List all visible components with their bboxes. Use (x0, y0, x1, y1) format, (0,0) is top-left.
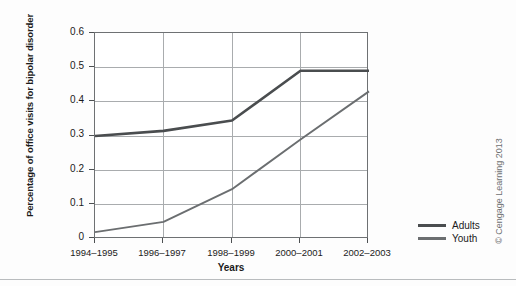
x-tick-label-1996-1997: 1996–1997 (124, 247, 200, 258)
x-tick-mark-2000-2001 (299, 238, 300, 243)
y-tick-label-0.1: 0.1 (48, 197, 84, 208)
series-lines (95, 33, 369, 239)
x-tick-label-2000-2001: 2000–2001 (261, 247, 337, 258)
y-tick-label-0.4: 0.4 (48, 94, 84, 105)
y-tick-label-0.2: 0.2 (48, 163, 84, 174)
x-axis-title: Years (94, 262, 368, 273)
y-axis-title: Percentage of office visits for bipolar … (24, 1, 35, 231)
legend-label-youth: Youth (452, 233, 477, 244)
legend-item-youth: Youth (418, 232, 480, 245)
chart-figure: Percentage of office visits for bipolar … (0, 0, 516, 286)
x-tick-label-2002-2003: 2002–2003 (329, 247, 405, 258)
legend-swatch-youth (418, 237, 446, 240)
y-tick-label-0: 0 (48, 231, 84, 242)
figure-bottom-rule (0, 279, 516, 280)
y-tick-label-0.3: 0.3 (48, 128, 84, 139)
x-tick-label-1998-1999: 1998–1999 (193, 247, 269, 258)
x-tick-mark-1996-1997 (162, 238, 163, 243)
legend-label-adults: Adults (452, 220, 480, 231)
x-tick-label-1994-1995: 1994–1995 (56, 247, 132, 258)
legend-swatch-adults (418, 224, 446, 227)
chart-legend: Adults Youth (418, 219, 480, 245)
line-series-adults (95, 71, 369, 136)
x-tick-mark-2002-2003 (367, 238, 368, 243)
y-tick-label-0.5: 0.5 (48, 60, 84, 71)
y-tick-label-0.6: 0.6 (48, 26, 84, 37)
x-tick-mark-1998-1999 (231, 238, 232, 243)
copyright-credit: © Cengage Learning 2013 (494, 101, 504, 281)
line-series-youth (95, 91, 369, 232)
x-tick-mark-1994-1995 (94, 238, 95, 243)
legend-item-adults: Adults (418, 219, 480, 232)
plot-area (94, 32, 368, 238)
